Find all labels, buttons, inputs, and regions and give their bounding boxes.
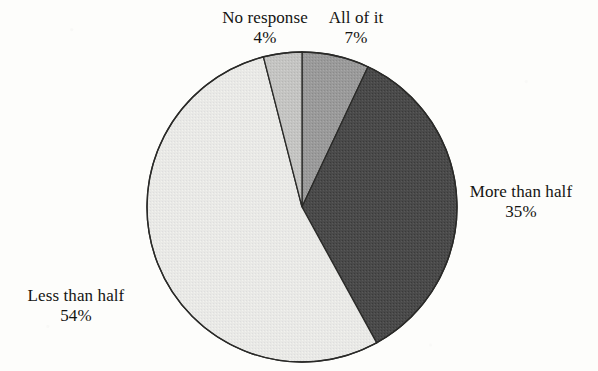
slice-label-more-than-half: More than half 35%	[446, 182, 596, 221]
slice-label-no-response-text: No response	[222, 8, 308, 27]
slice-label-less-than-half-percent: 54%	[2, 306, 150, 326]
slice-label-all-of-it-percent: 7%	[300, 28, 412, 48]
slice-label-less-than-half: Less than half 54%	[2, 286, 150, 325]
slice-label-more-than-half-percent: 35%	[446, 202, 596, 222]
pie-chart-page: No response 4% All of it 7% More than ha…	[0, 0, 598, 371]
slice-label-less-than-half-text: Less than half	[28, 286, 125, 305]
slice-label-all-of-it-text: All of it	[329, 8, 384, 27]
slice-label-more-than-half-text: More than half	[470, 182, 572, 201]
slice-label-all-of-it: All of it 7%	[300, 8, 412, 47]
